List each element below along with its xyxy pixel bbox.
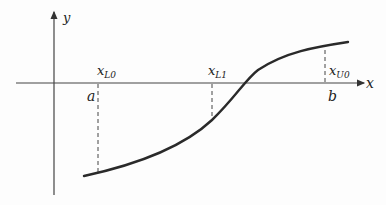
label-x-L0: xL0 — [97, 63, 116, 80]
function-curve — [84, 42, 348, 176]
label-x-U0: xU0 — [329, 63, 350, 80]
x-axis-label: x — [366, 75, 374, 91]
y-axis-label: y — [62, 10, 71, 25]
bracketing-diagram: x y xL0 xL1 xU0 a b — [0, 0, 386, 205]
label-b: b — [328, 88, 337, 104]
label-x-L1: xL1 — [208, 63, 227, 80]
label-a: a — [87, 88, 95, 104]
